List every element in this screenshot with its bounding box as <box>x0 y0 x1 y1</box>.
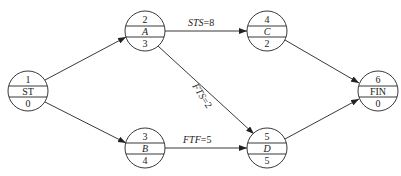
node-fin: 6 FIN 0 <box>358 71 398 111</box>
node-d: 5 D 5 <box>247 128 287 168</box>
node-b: 3 B 4 <box>125 128 165 168</box>
precedence-diagram: STS=8 FTS=2 FTF=5 1 ST 0 2 A 3 3 B 4 4 C… <box>0 0 401 176</box>
edge-d-fin <box>285 99 359 139</box>
node-d-name: D <box>262 143 271 154</box>
node-fin-bottom: 0 <box>376 98 381 109</box>
node-fin-top: 6 <box>376 74 381 85</box>
node-c: 4 C 2 <box>247 11 287 51</box>
node-a: 2 A 3 <box>125 11 165 51</box>
node-b-bottom: 4 <box>143 155 148 166</box>
node-b-name: B <box>142 143 148 154</box>
node-c-top: 4 <box>265 14 270 25</box>
node-st: 1 ST 0 <box>8 71 48 111</box>
edge-label-ftf: FTF=5 <box>182 134 211 145</box>
edge-st-a <box>45 37 126 80</box>
node-a-name: A <box>141 26 149 37</box>
node-st-top: 1 <box>26 74 31 85</box>
node-c-name: C <box>264 26 271 37</box>
node-fin-name: FIN <box>370 86 386 97</box>
edge-c-fin <box>285 40 359 83</box>
edge-label-fts: FTS=2 <box>190 80 215 110</box>
node-c-bottom: 2 <box>265 38 270 49</box>
node-a-bottom: 3 <box>143 38 148 49</box>
node-d-top: 5 <box>265 131 270 142</box>
node-a-top: 2 <box>143 14 148 25</box>
edge-label-sts: STS=8 <box>188 17 214 28</box>
edge-st-b <box>45 102 126 143</box>
node-d-bottom: 5 <box>265 155 270 166</box>
node-b-top: 3 <box>143 131 148 142</box>
node-st-bottom: 0 <box>26 98 31 109</box>
node-st-name: ST <box>22 86 34 97</box>
